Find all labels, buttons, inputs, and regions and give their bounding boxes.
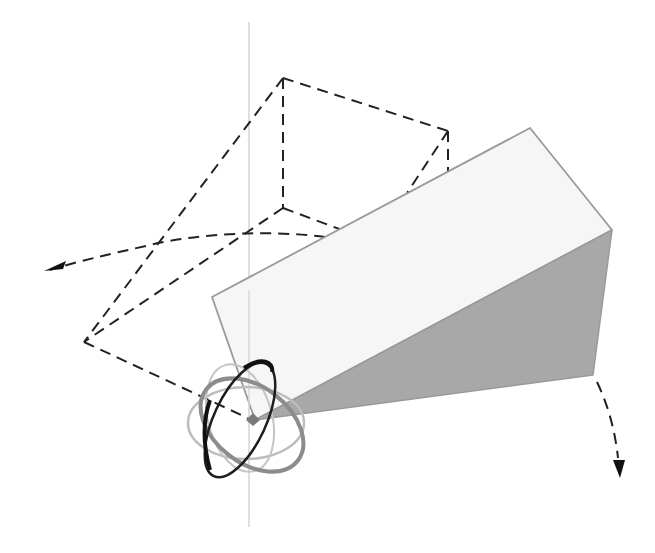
down-rotation-arc: [597, 382, 618, 458]
left-arrow-icon: [44, 261, 66, 271]
dashed-edge: [283, 208, 342, 230]
down-arrow-icon: [613, 460, 625, 478]
rotated-prism: [212, 128, 612, 420]
dashed-edge: [84, 342, 252, 420]
rotation-diagram: [0, 0, 655, 553]
diagram-canvas: [0, 0, 655, 553]
dashed-edge: [283, 78, 448, 131]
